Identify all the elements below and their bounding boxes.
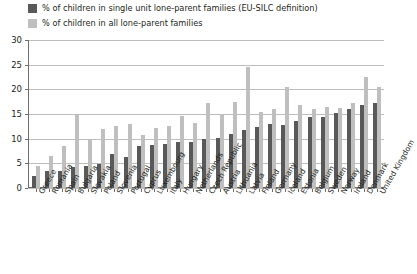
bar-group	[358, 40, 371, 188]
bar-group	[29, 40, 42, 188]
legend-label-single-unit: % of children in single unit lone-parent…	[42, 4, 318, 13]
x-axis-label-cell: Latvia	[239, 189, 252, 274]
x-axis-label-cell: Italy	[160, 189, 173, 274]
bar-group	[266, 40, 279, 188]
y-axis-tick-label: 5	[0, 158, 22, 168]
x-axis-label-cell: Bulgaria	[68, 189, 81, 274]
x-axis-label-cell: Hungary	[174, 189, 187, 274]
legend-item-single-unit: % of children in single unit lone-parent…	[28, 2, 318, 15]
chart-legend: % of children in single unit lone-parent…	[28, 2, 318, 32]
bar-group	[305, 40, 318, 188]
x-axis-label-cell: Austria	[213, 189, 226, 274]
x-axis-label-cell: Greece	[29, 189, 42, 274]
bar-group	[42, 40, 55, 188]
x-axis-label-cell: Luxembourg	[147, 189, 160, 274]
x-axis-label-cell: Ireland	[344, 189, 357, 274]
x-axis-label-cell: Norway	[331, 189, 344, 274]
x-axis-labels: GreeceRomaniaSpainBulgariaSlovakiaPoland…	[29, 189, 384, 274]
x-axis-label-cell: Portugal	[121, 189, 134, 274]
x-axis-label-cell: Finland	[252, 189, 265, 274]
y-axis-tick-mark	[25, 188, 28, 189]
y-axis-tick-label: 25	[0, 60, 22, 70]
x-axis-label-cell: Germany	[266, 189, 279, 274]
x-axis-label-cell: United Kingdom	[371, 189, 384, 274]
y-axis-tick-label: 10	[0, 134, 22, 144]
y-axis-tick-label: 15	[0, 109, 22, 119]
x-axis-label-cell: Romania	[42, 189, 55, 274]
x-axis-label-cell: Poland	[95, 189, 108, 274]
x-axis-label-cell: Slovakia	[82, 189, 95, 274]
x-axis-label-cell: Belgium	[305, 189, 318, 274]
legend-item-all-lone-parent: % of children in all lone-parent familie…	[28, 17, 318, 30]
x-axis-label-cell: Netherlands	[187, 189, 200, 274]
bar-group	[344, 40, 357, 188]
x-axis-label-cell: Sweden	[318, 189, 331, 274]
y-axis-tick-label: 20	[0, 84, 22, 94]
bar	[36, 166, 40, 188]
x-axis-label-cell: Lithuania	[226, 189, 239, 274]
x-axis-label-cell: Iceland	[279, 189, 292, 274]
x-axis-label-cell: Estonia	[292, 189, 305, 274]
x-axis-label-cell: Czech Republic	[200, 189, 213, 274]
y-axis-tick-label: 30	[0, 35, 22, 45]
y-axis-tick-label: 0	[0, 183, 22, 193]
legend-label-all-lone-parent: % of children in all lone-parent familie…	[42, 19, 202, 28]
x-axis-label-cell: Denmark	[358, 189, 371, 274]
legend-swatch-light	[28, 19, 37, 28]
legend-swatch-dark	[28, 4, 37, 13]
x-axis-label-cell: Slovenia	[108, 189, 121, 274]
x-axis-label-cell: Cyprus	[134, 189, 147, 274]
x-axis-label-cell: Spain	[55, 189, 68, 274]
